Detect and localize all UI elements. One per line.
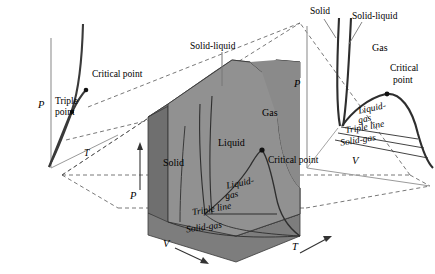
right-solid-liquid-label: Solid-liquid	[352, 11, 397, 21]
center-t-axis-arrowhead	[323, 236, 332, 242]
left-p-axis-label: P	[38, 99, 44, 110]
right-pv-diagram	[307, 18, 433, 186]
left-critical-point-dot	[84, 88, 89, 93]
center-liquid-label: Liquid	[218, 138, 245, 148]
center-critical-point-dot	[259, 147, 264, 152]
center-solid-label: Solid	[163, 158, 184, 168]
center-gas-label: Gas	[262, 108, 278, 118]
left-t-axis-label: T	[84, 148, 89, 158]
right-solid-leader-line	[324, 19, 336, 38]
center-p-axis-arrowhead	[137, 142, 143, 150]
right-critical-point-label-line2: point	[393, 75, 413, 85]
left-triple-point-label-line1: Triple	[55, 96, 78, 106]
right-gas-label: Gas	[372, 43, 388, 53]
right-p-axis-label: P	[294, 78, 300, 89]
center-t-axis-line	[300, 238, 328, 253]
center-p-axis-label: P	[130, 190, 136, 201]
center-t-axis-label: T	[292, 241, 298, 252]
right-solid-curve	[337, 18, 340, 126]
right-critical-point-dot	[385, 92, 390, 97]
left-critical-point-label: Critical point	[92, 69, 142, 79]
right-v-axis	[307, 168, 430, 186]
left-triple-point-label-line2: point	[55, 107, 75, 117]
phase-diagram-figure: P T Critical point Triple point Solid-li…	[0, 0, 435, 274]
right-v-axis-label: V	[352, 155, 358, 166]
center-solid-liquid-label: Solid-liquid	[190, 41, 235, 51]
center-critical-point-label: Critical point	[268, 155, 318, 165]
right-solid-liquid-curve	[343, 18, 351, 126]
center-v-axis-arrowhead	[200, 257, 209, 264]
right-critical-point-label-line1: Critical	[390, 63, 419, 73]
right-solid-label: Solid	[310, 6, 330, 16]
center-v-axis-label: V	[163, 238, 169, 249]
